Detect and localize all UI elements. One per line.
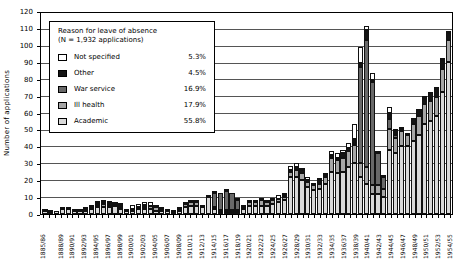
- legend-label: Other: [74, 69, 94, 77]
- x-tick-label: 1940/41: [363, 219, 370, 259]
- segment-ill-health: [329, 158, 334, 172]
- x-tick: [96, 215, 97, 218]
- y-tick: [37, 215, 40, 216]
- x-tick: [362, 215, 363, 218]
- segment-academic: [405, 146, 410, 214]
- segment-academic: [89, 209, 94, 214]
- legend-entry-other: Other4.5%: [58, 69, 206, 77]
- x-tick: [220, 215, 221, 218]
- segment-academic: [358, 177, 363, 214]
- segment-academic: [206, 197, 211, 214]
- segment-war-service: [212, 193, 217, 207]
- segment-ill-health: [387, 129, 392, 149]
- x-tick-label: 1902/03: [139, 219, 146, 259]
- segment-not-specified: [352, 124, 357, 139]
- segment-academic: [422, 124, 427, 214]
- x-tick: [385, 215, 386, 218]
- stacked-bar-chart: Number of applications 01020304050607080…: [0, 0, 458, 265]
- segment-academic: [335, 173, 340, 214]
- x-tick: [308, 215, 309, 218]
- x-tick-label: 1936/37: [340, 219, 347, 259]
- bar-1926-27: [282, 13, 287, 214]
- segment-academic: [159, 211, 164, 214]
- x-tick: [391, 215, 392, 218]
- segment-academic: [393, 153, 398, 214]
- segment-academic: [370, 194, 375, 214]
- x-tick-label: 1896/97: [104, 219, 111, 259]
- bar-1951-52: [428, 13, 433, 214]
- legend-entry-ill-health: Ill health17.9%: [58, 101, 206, 109]
- y-tick: [37, 114, 40, 115]
- segment-academic: [346, 167, 351, 214]
- bar-1928-29: [294, 13, 299, 214]
- legend-label: Ill health: [74, 101, 104, 109]
- segment-other: [422, 96, 427, 104]
- legend-entry-academic: Academic55.8%: [58, 117, 206, 125]
- y-tick: [37, 46, 40, 47]
- legend-swatch-icon: [58, 54, 67, 61]
- segment-ill-health: [323, 177, 328, 184]
- bar-1942-43: [375, 13, 380, 214]
- x-tick: [179, 215, 180, 218]
- x-tick-label: 1888/89: [57, 219, 64, 259]
- segment-ill-health: [335, 160, 340, 174]
- bar-1915-16: [218, 13, 223, 214]
- x-tick-label: 1892/93: [80, 219, 87, 259]
- segment-ill-health: [393, 138, 398, 153]
- segment-other: [446, 33, 451, 40]
- legend-title-line1: Reason for leave of absence: [58, 27, 206, 36]
- segment-academic: [95, 207, 100, 214]
- segment-ill-health: [294, 170, 299, 177]
- segment-ill-health: [381, 189, 386, 197]
- x-tick: [244, 215, 245, 218]
- segment-ill-health: [405, 135, 410, 147]
- legend-label: Not specified: [74, 53, 120, 61]
- y-tick: [37, 164, 40, 165]
- bar-1925-26: [276, 13, 281, 214]
- y-tick-label: 80: [24, 76, 33, 83]
- x-tick: [438, 215, 439, 218]
- segment-ill-health: [358, 163, 363, 177]
- x-tick: [131, 215, 132, 218]
- bar-1954-55: [446, 13, 451, 214]
- x-tick: [167, 215, 168, 218]
- segment-academic: [224, 212, 229, 214]
- segment-academic: [77, 211, 82, 214]
- y-tick-label: 60: [24, 110, 33, 117]
- y-tick: [37, 80, 40, 81]
- segment-academic: [259, 206, 264, 214]
- segment-not-specified: [370, 73, 375, 80]
- bar-1934-35: [329, 13, 334, 214]
- x-tick-label: 1924/25: [269, 219, 276, 259]
- segment-academic: [282, 200, 287, 214]
- x-tick-label: 1932/33: [316, 219, 323, 259]
- bar-1922-23: [259, 13, 264, 214]
- segment-academic: [311, 190, 316, 214]
- legend-entry-not-specified: Not specified5.3%: [58, 53, 206, 61]
- legend-box: Reason for leave of absence (N = 1,932 a…: [49, 21, 215, 133]
- segment-academic: [107, 207, 112, 214]
- segment-academic: [124, 211, 129, 214]
- segment-academic: [60, 209, 65, 214]
- segment-academic: [323, 184, 328, 214]
- segment-ill-health: [422, 104, 427, 124]
- x-tick-label: 1944/45: [387, 219, 394, 259]
- x-tick: [403, 215, 404, 218]
- segment-other: [411, 118, 416, 125]
- x-tick-label: 1918/19: [234, 219, 241, 259]
- x-tick: [78, 215, 79, 218]
- x-tick-label: 1912/13: [198, 219, 205, 259]
- segment-academic: [42, 211, 47, 214]
- bar-1919-20: [241, 13, 246, 214]
- segment-ill-health: [446, 40, 451, 62]
- x-tick: [67, 215, 68, 218]
- x-tick-label: 1885/86: [39, 219, 46, 259]
- segment-academic: [194, 206, 199, 214]
- legend-percent: 55.8%: [184, 117, 206, 125]
- y-tick: [37, 181, 40, 182]
- segment-academic: [101, 207, 106, 214]
- segment-academic: [381, 197, 386, 214]
- bar-1945-46: [393, 13, 398, 214]
- x-tick-label: 1928/29: [293, 219, 300, 259]
- segment-academic: [375, 194, 380, 214]
